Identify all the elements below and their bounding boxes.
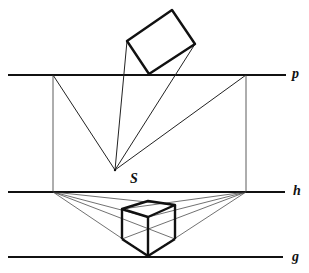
perspective-diagram: p h g S (0, 0, 309, 273)
point-s (114, 169, 116, 171)
rays-from-s (53, 41, 246, 170)
cube (122, 201, 175, 256)
rotated-square (127, 10, 195, 74)
label-s: S (130, 172, 138, 186)
diagram-canvas (0, 0, 309, 273)
label-g: g (292, 250, 299, 264)
label-h: h (293, 184, 301, 198)
label-p: p (292, 67, 299, 81)
